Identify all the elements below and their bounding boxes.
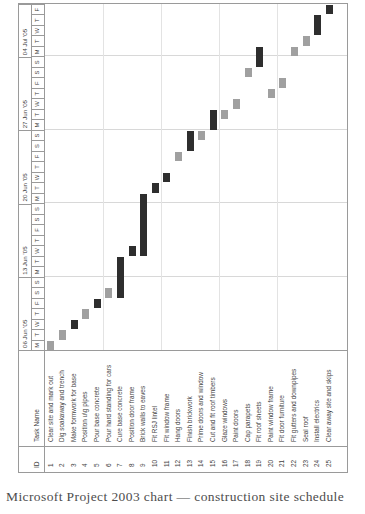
task-id-cell[interactable]: 1 [45,447,57,472]
task-id-cell[interactable]: 23 [300,447,312,472]
timescale-day-label: M [32,266,45,276]
gantt-bar[interactable] [58,330,65,339]
gantt-body: 1234567891011121314151617181920212223242… [45,4,347,472]
timescale-header: 06 Jun '0513 Jun '0520 Jun '0527 Jun '05… [19,4,45,350]
task-id-cell[interactable]: 20 [265,447,277,472]
row-gridline [219,4,220,350]
gantt-bar[interactable] [116,257,123,298]
gantt-bar[interactable] [151,183,158,192]
row-gridline [277,4,278,350]
task-name-cell[interactable]: Glaze windows [218,351,230,446]
gantt-bar[interactable] [325,5,332,14]
gantt-bar[interactable] [302,36,309,45]
task-id-cell[interactable]: 22 [288,447,300,472]
task-id-column: 1234567891011121314151617181920212223242… [45,446,347,472]
task-id-cell[interactable]: 9 [137,447,149,472]
task-name-cell[interactable]: Prime doors and window [195,351,207,446]
task-id-cell[interactable]: 7 [114,447,126,472]
task-name-cell[interactable]: Cap parapets [242,351,254,446]
week-gridline [45,202,347,203]
timescale-day-label: M [32,46,45,56]
gantt-bar[interactable] [140,194,147,256]
timescale-day-label: W [32,25,45,35]
task-name-cell[interactable]: Seal roof [300,351,312,446]
task-id-cell[interactable]: 14 [195,447,207,472]
gantt-bar[interactable] [186,131,193,151]
gantt-bar[interactable] [82,309,89,318]
task-name-cell[interactable]: Clear site and mark out [45,351,57,446]
task-id-cell[interactable]: 16 [218,447,230,472]
task-name-cell[interactable]: Hang doors [172,351,184,446]
timescale-day-label: S [32,130,45,140]
timescale-week-label: 06 Jun '05 [19,277,32,350]
timescale-day-label: W [32,245,45,255]
task-id-cell[interactable]: 4 [79,447,91,472]
timescale-day-label: T [32,35,45,45]
task-name-cell[interactable]: Finish brickwork [184,351,196,446]
task-name-cell[interactable]: Brick walls to eaves [137,351,149,446]
task-name-cell[interactable]: Clear away site and skips [323,351,335,446]
task-name-cell[interactable]: Position door frame [126,351,138,446]
task-id-cell[interactable]: 18 [242,447,254,472]
gantt-bar[interactable] [128,246,135,255]
timescale-day-label: W [32,98,45,108]
task-name-cell[interactable]: Fit window frame [160,351,172,446]
task-id-cell[interactable]: 8 [126,447,138,472]
column-header-id: ID [19,446,45,472]
task-id-cell[interactable]: 15 [207,447,219,472]
gantt-bar[interactable] [267,89,274,98]
task-name-cell[interactable]: Fit roof sheets [253,351,265,446]
gantt-bar[interactable] [47,341,54,350]
gantt-bar[interactable] [244,68,251,77]
gantt-bar[interactable] [232,99,239,108]
task-name-cell[interactable]: Make formwork for base [68,351,80,446]
task-id-cell[interactable]: 5 [91,447,103,472]
task-name-cell[interactable]: Paint window frame [265,351,277,446]
gantt-bar[interactable] [163,173,170,182]
row-gridline [161,4,162,350]
gantt-bar[interactable] [256,47,263,67]
timescale-day-label: S [32,287,45,297]
timescale-day-label: T [32,161,45,171]
task-id-cell[interactable]: 19 [253,447,265,472]
task-id-cell[interactable]: 6 [102,447,114,472]
task-id-cell[interactable]: 3 [68,447,80,472]
task-name-cell[interactable]: Fit gutters and downpipes [288,351,300,446]
gantt-bar[interactable] [221,110,228,119]
gantt-bar[interactable] [105,288,112,297]
timescale-day-label: M [32,193,45,203]
gantt-bar[interactable] [290,47,297,56]
timescale-day-label: F [32,77,45,87]
task-name-cell[interactable]: Pour base concrete [91,351,103,446]
task-id-cell[interactable]: 13 [184,447,196,472]
task-name-cell[interactable]: Position u\g pipes [79,351,91,446]
gantt-bar[interactable] [198,131,205,140]
row-gridline [103,4,104,350]
gantt-figure-rotated: ID Task Name 06 Jun '0513 Jun '0520 Jun … [18,3,348,473]
gantt-bar[interactable] [174,152,181,161]
task-id-cell[interactable]: 12 [172,447,184,472]
task-name-cell[interactable]: Fit RSJ lintel [149,351,161,446]
task-name-cell[interactable]: Pour hard standing for cars [102,351,114,446]
timescale-week-label: 13 Jun '05 [19,204,32,277]
gantt-bar[interactable] [314,16,321,36]
task-name-cell[interactable]: Cure base concrete [114,351,126,446]
task-name-cell[interactable]: Cut and fit roof timbers [207,351,219,446]
timescale-day-label: W [32,172,45,182]
task-id-cell[interactable]: 21 [276,447,288,472]
task-id-cell[interactable]: 11 [160,447,172,472]
task-name-cell[interactable]: Install electrics [311,351,323,446]
task-id-cell[interactable]: 25 [323,447,335,472]
task-id-cell[interactable]: 17 [230,447,242,472]
gantt-bar[interactable] [279,78,286,87]
task-name-cell[interactable]: Fit door furniture [276,351,288,446]
task-id-cell[interactable]: 2 [56,447,68,472]
task-id-cell[interactable]: 24 [311,447,323,472]
task-name-cell[interactable]: Dig soakaway and trench [56,351,68,446]
task-id-cell[interactable]: 10 [149,447,161,472]
task-name-cell[interactable]: Paint doors [230,351,242,446]
gantt-bar[interactable] [70,320,77,329]
gantt-bar[interactable] [209,110,216,130]
gantt-bars-area [45,4,347,350]
gantt-bar[interactable] [93,299,100,308]
